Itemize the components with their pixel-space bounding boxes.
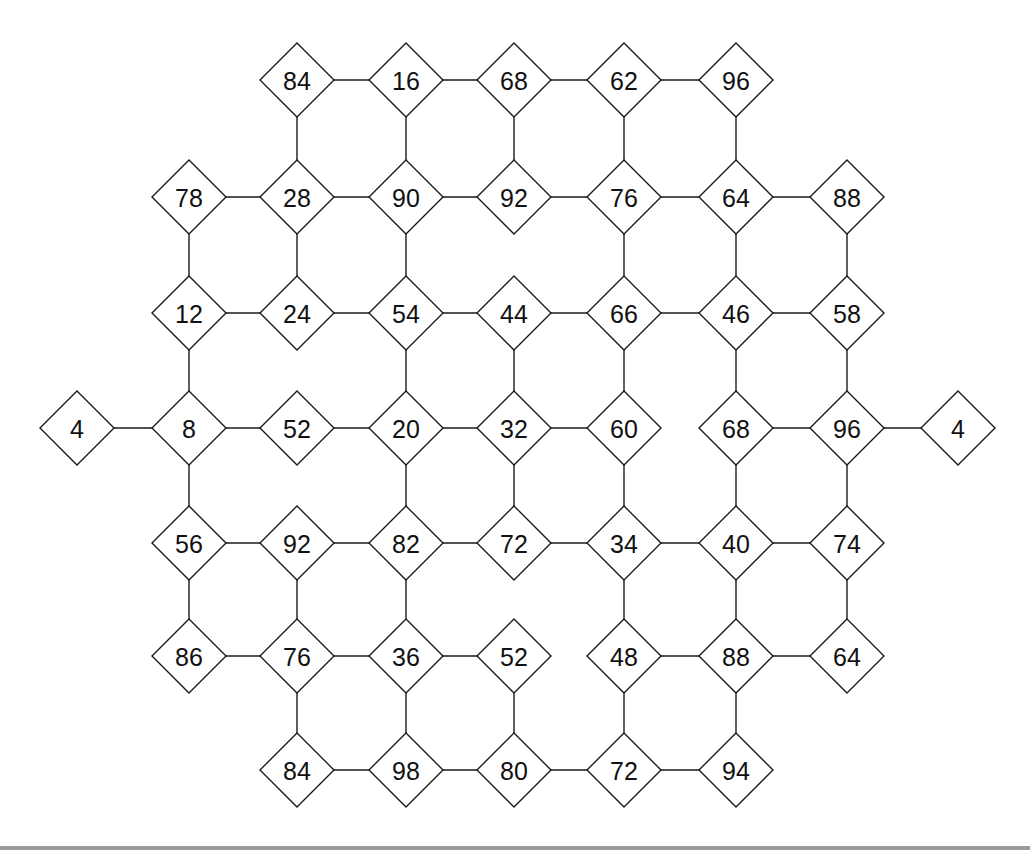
diamond-node: 74 <box>810 506 884 580</box>
node-label: 44 <box>500 300 528 328</box>
bottom-border <box>0 846 1030 850</box>
node-label: 48 <box>610 643 638 671</box>
diamond-node: 96 <box>699 43 773 117</box>
diamond-node: 76 <box>587 160 661 234</box>
node-label: 46 <box>722 300 750 328</box>
diamond-node: 76 <box>260 619 334 693</box>
node-label: 92 <box>500 184 528 212</box>
diamond-node: 82 <box>369 506 443 580</box>
node-label: 8 <box>182 415 196 443</box>
diamond-node: 16 <box>369 43 443 117</box>
diamond-node: 64 <box>699 160 773 234</box>
node-label: 76 <box>610 184 638 212</box>
diamond-node: 94 <box>699 733 773 807</box>
diamond-node: 84 <box>260 43 334 117</box>
node-label: 56 <box>175 530 203 558</box>
diamond-node: 52 <box>477 619 551 693</box>
diamond-node: 66 <box>587 276 661 350</box>
node-label: 36 <box>392 643 420 671</box>
diamond-node: 4 <box>921 391 995 465</box>
diamond-node: 68 <box>699 391 773 465</box>
diamond-node: 12 <box>152 276 226 350</box>
diamond-node: 90 <box>369 160 443 234</box>
node-label: 82 <box>392 530 420 558</box>
node-label: 52 <box>283 415 311 443</box>
diamond-node: 68 <box>477 43 551 117</box>
node-label: 94 <box>722 757 750 785</box>
node-label: 28 <box>283 184 311 212</box>
diamond-node: 28 <box>260 160 334 234</box>
diamond-node: 58 <box>810 276 884 350</box>
node-label: 92 <box>283 530 311 558</box>
node-label: 80 <box>500 757 528 785</box>
node-label: 84 <box>283 67 311 95</box>
node-label: 58 <box>833 300 861 328</box>
node-label: 74 <box>833 530 861 558</box>
diamond-node: 64 <box>810 619 884 693</box>
diamond-node: 20 <box>369 391 443 465</box>
diamond-node: 24 <box>260 276 334 350</box>
node-label: 96 <box>833 415 861 443</box>
node-label: 86 <box>175 643 203 671</box>
diamond-node: 88 <box>810 160 884 234</box>
node-label: 78 <box>175 184 203 212</box>
diamond-node: 98 <box>369 733 443 807</box>
diamond-node: 52 <box>260 391 334 465</box>
diamond-node: 84 <box>260 733 334 807</box>
node-label: 54 <box>392 300 420 328</box>
diamond-node: 48 <box>587 619 661 693</box>
diamond-node: 86 <box>152 619 226 693</box>
node-label: 76 <box>283 643 311 671</box>
node-label: 98 <box>392 757 420 785</box>
node-label: 66 <box>610 300 638 328</box>
node-label: 72 <box>500 530 528 558</box>
diamond-node: 54 <box>369 276 443 350</box>
diamond-node: 4 <box>40 391 114 465</box>
node-label: 16 <box>392 67 420 95</box>
node-label: 12 <box>175 300 203 328</box>
node-label: 72 <box>610 757 638 785</box>
node-label: 68 <box>500 67 528 95</box>
node-label: 96 <box>722 67 750 95</box>
diamond-node: 32 <box>477 391 551 465</box>
diamond-node: 44 <box>477 276 551 350</box>
diamond-node: 78 <box>152 160 226 234</box>
node-label: 88 <box>833 184 861 212</box>
node-label: 64 <box>833 643 861 671</box>
diamond-node: 92 <box>260 506 334 580</box>
node-label: 64 <box>722 184 750 212</box>
diamond-node: 8 <box>152 391 226 465</box>
node-label: 52 <box>500 643 528 671</box>
node-label: 90 <box>392 184 420 212</box>
node-label: 60 <box>610 415 638 443</box>
node-label: 20 <box>392 415 420 443</box>
diamond-node: 72 <box>477 506 551 580</box>
diamond-node: 46 <box>699 276 773 350</box>
diamond-node: 34 <box>587 506 661 580</box>
diamond-node: 72 <box>587 733 661 807</box>
node-label: 34 <box>610 530 638 558</box>
node-label: 32 <box>500 415 528 443</box>
nodes-layer: 8416686296782890927664881224544466465848… <box>40 43 995 807</box>
diamond-node: 62 <box>587 43 661 117</box>
diamond-node: 96 <box>810 391 884 465</box>
node-label: 68 <box>722 415 750 443</box>
node-label: 40 <box>722 530 750 558</box>
diamond-node: 40 <box>699 506 773 580</box>
node-label: 62 <box>610 67 638 95</box>
diamond-node: 60 <box>587 391 661 465</box>
diamond-node: 36 <box>369 619 443 693</box>
node-label: 4 <box>951 415 965 443</box>
diamond-node: 92 <box>477 160 551 234</box>
diamond-node: 56 <box>152 506 226 580</box>
diamond-node: 88 <box>699 619 773 693</box>
number-grid-diagram: 8416686296782890927664881224544466465848… <box>0 0 1030 850</box>
diamond-node: 80 <box>477 733 551 807</box>
node-label: 88 <box>722 643 750 671</box>
node-label: 24 <box>283 300 311 328</box>
node-label: 84 <box>283 757 311 785</box>
node-label: 4 <box>70 415 84 443</box>
